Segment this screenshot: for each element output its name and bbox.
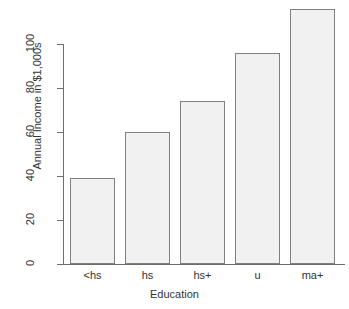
- y-axis-tick-label: 0: [24, 243, 36, 283]
- x-axis-tick-label: <hs: [70, 269, 115, 281]
- x-axis-tick-label: hs+: [180, 269, 225, 281]
- cropped-top-text: [4, 0, 304, 4]
- y-axis-tick: [57, 220, 63, 221]
- x-axis-title: Education: [0, 288, 349, 300]
- x-axis-line: [63, 264, 345, 265]
- bar: [290, 9, 335, 264]
- x-axis-tick-label: ma+: [290, 269, 335, 281]
- y-axis-tick-label: 80: [24, 67, 36, 107]
- y-axis-tick-label: 100: [24, 23, 36, 63]
- y-axis-line: [63, 44, 64, 264]
- y-axis-tick-label: 60: [24, 111, 36, 151]
- bar: [125, 132, 170, 264]
- bar-chart: Annual Income in $1,000s 020406080100 <h…: [0, 0, 349, 309]
- y-axis-tick-label: 20: [24, 199, 36, 239]
- y-axis-tick: [57, 88, 63, 89]
- bar: [235, 53, 280, 264]
- y-axis-tick: [57, 44, 63, 45]
- y-axis-tick-label: 40: [24, 155, 36, 195]
- y-axis-tick: [57, 176, 63, 177]
- y-axis-tick: [57, 132, 63, 133]
- bar: [70, 178, 115, 264]
- x-axis-tick-label: hs: [125, 269, 170, 281]
- x-axis-tick-label: u: [235, 269, 280, 281]
- bar: [180, 101, 225, 264]
